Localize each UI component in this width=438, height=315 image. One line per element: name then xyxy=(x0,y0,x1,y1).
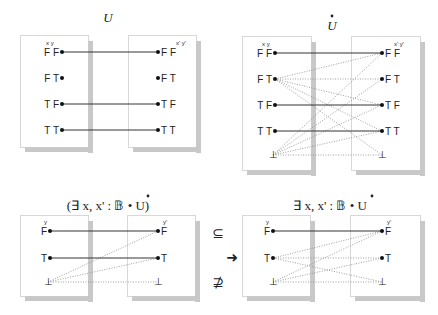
not-superset-symbol: ⊉ xyxy=(212,274,224,290)
state-label: F F xyxy=(385,48,400,59)
state-node xyxy=(156,76,160,80)
right-variable-header: x' y' xyxy=(176,40,186,46)
left-box-shadow xyxy=(25,147,93,152)
state-label: T xyxy=(161,253,167,264)
state-label: F xyxy=(41,226,47,237)
diagram-title: ∃ x, x' : 𝔹 • U xyxy=(293,198,367,213)
state-label: T xyxy=(41,253,47,264)
arrow-right-icon: ➜ xyxy=(226,249,238,265)
state-label: F T xyxy=(44,73,59,84)
state-label: T F xyxy=(161,99,176,110)
state-label: F T xyxy=(385,74,400,85)
state-label: T F xyxy=(385,100,400,111)
bottom-node: ⊥ xyxy=(378,149,387,160)
state-node xyxy=(273,51,277,55)
state-node xyxy=(60,102,64,106)
state-label: T T xyxy=(161,125,176,136)
dot-accent xyxy=(331,15,334,18)
state-label: F T xyxy=(257,74,272,85)
diagram-title: (∃ x, x' : 𝔹 • U) xyxy=(67,198,149,213)
state-node xyxy=(156,102,160,106)
state-node xyxy=(380,256,384,260)
bottom-node: ⊥ xyxy=(269,149,278,160)
state-node xyxy=(271,256,275,260)
state-node xyxy=(48,229,52,233)
diagram-title: U xyxy=(327,18,338,33)
state-label: F xyxy=(264,226,270,237)
state-node xyxy=(156,229,160,233)
diagram-exists-U-dot: (∃ x, x' : 𝔹 • U)yy'FT⊥FT⊥ xyxy=(21,195,201,302)
state-label: F xyxy=(385,226,391,237)
state-label: T F xyxy=(257,100,272,111)
diagram-U: Ux yx' y'F FF TT FT TF FF TT FT T xyxy=(21,10,202,153)
state-node xyxy=(156,256,160,260)
bottom-node: ⊥ xyxy=(154,276,163,287)
bottom-node: ⊥ xyxy=(269,276,278,287)
state-label: F F xyxy=(161,47,176,58)
state-label: F F xyxy=(257,48,272,59)
right-variable-header: y' xyxy=(163,219,167,225)
subset-symbol: ⊆ xyxy=(212,225,224,241)
diagram-canvas: Ux yx' y'F FF TT FT TF FF TT FT TUx yx' … xyxy=(0,0,438,315)
state-node xyxy=(380,77,384,81)
dot-accent xyxy=(371,195,374,198)
state-node xyxy=(380,129,384,133)
diagram-title: U xyxy=(103,10,114,25)
state-label: F T xyxy=(161,73,176,84)
state-node xyxy=(60,128,64,132)
diagram-U-dot: Ux yx' y'F FF TT FT T⊥F FF TT FT T⊥ xyxy=(243,15,426,176)
state-node xyxy=(273,103,277,107)
state-node xyxy=(380,229,384,233)
state-node xyxy=(60,50,64,54)
left-state-box xyxy=(21,216,89,297)
dot-accent xyxy=(147,195,150,198)
right-variable-header: y' xyxy=(387,219,391,225)
left-variable-header: y xyxy=(44,219,47,225)
right-variable-header: x' y' xyxy=(394,41,404,47)
bottom-node: ⊥ xyxy=(44,276,53,287)
state-label: T F xyxy=(44,99,59,110)
state-label: T xyxy=(385,253,391,264)
state-node xyxy=(380,51,384,55)
state-label: T T xyxy=(44,125,59,136)
state-label: T T xyxy=(257,126,272,137)
state-label: T T xyxy=(385,126,400,137)
state-node xyxy=(60,76,64,80)
left-variable-header: y xyxy=(266,219,269,225)
left-variable-header: x y xyxy=(262,41,270,47)
state-node xyxy=(380,103,384,107)
state-label: T xyxy=(264,253,270,264)
diagram-exists-U-dot-2: ∃ x, x' : 𝔹 • Uyy'FT⊥FT⊥ xyxy=(243,195,426,302)
right-box-shadow xyxy=(133,147,201,152)
state-node xyxy=(273,77,277,81)
state-node xyxy=(156,128,160,132)
bottom-node: ⊥ xyxy=(378,276,387,287)
state-label: F xyxy=(161,226,167,237)
state-node xyxy=(156,50,160,54)
state-node xyxy=(48,256,52,260)
state-label: F F xyxy=(44,47,59,58)
left-variable-header: x y xyxy=(46,40,54,46)
state-node xyxy=(271,229,275,233)
state-node xyxy=(273,129,277,133)
